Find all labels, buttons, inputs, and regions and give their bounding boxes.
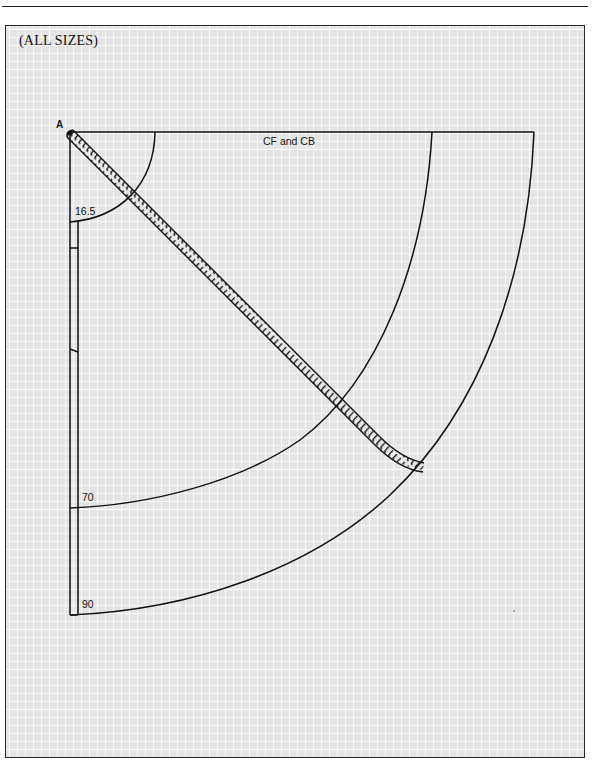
label-70: 70 [82, 491, 94, 503]
tape-measure-icon [67, 130, 424, 472]
label-90: 90 [82, 598, 94, 610]
cf-cb-label: CF and CB [263, 135, 315, 147]
point-a-label: A [56, 119, 63, 130]
strip-notch-2 [70, 349, 78, 352]
label-16-5: 16.5 [75, 205, 96, 217]
speck [513, 610, 515, 612]
pattern-drawing: A CF and CB 16.5 70 90 [0, 0, 605, 766]
